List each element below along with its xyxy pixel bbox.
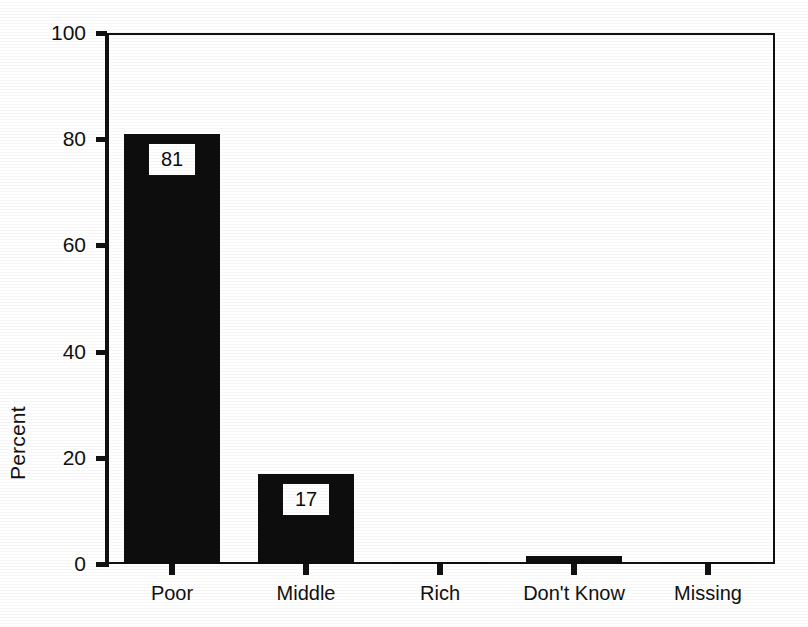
x-tick-mark: [705, 564, 711, 575]
x-category-label: Poor: [151, 582, 193, 605]
x-tick-mark: [303, 564, 309, 575]
x-category-label: Rich: [420, 582, 460, 605]
x-tick-mark: [437, 564, 443, 575]
bar: [124, 134, 220, 564]
y-tick-label: 60: [8, 234, 86, 255]
x-category-label: Missing: [674, 582, 742, 605]
bar-value-label: 81: [148, 143, 196, 176]
bar-value-label: 17: [282, 483, 330, 516]
y-tick-label: 40: [8, 341, 86, 362]
y-tick-label: 80: [8, 128, 86, 149]
x-category-label: Middle: [277, 582, 336, 605]
bar-chart: Percent 020406080100 8117 PoorMiddleRich…: [0, 0, 808, 627]
bar: [526, 556, 622, 564]
x-tick-mark: [169, 564, 175, 575]
bars-layer: 8117: [105, 33, 775, 564]
x-category-label: Don't Know: [523, 582, 625, 605]
y-tick-label: 20: [8, 447, 86, 468]
y-tick-label: 0: [8, 553, 86, 574]
y-tick-label: 100: [8, 22, 86, 43]
x-tick-mark: [571, 564, 577, 575]
